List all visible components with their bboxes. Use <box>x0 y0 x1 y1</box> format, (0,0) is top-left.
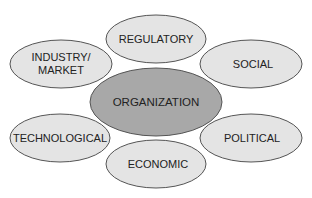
node-industry-market: INDUSTRY/ MARKET <box>10 40 112 88</box>
industry-market-label-line2: MARKET <box>38 64 84 76</box>
environment-diagram: REGULATORY INDUSTRY/ MARKET SOCIAL TECHN… <box>0 0 312 198</box>
node-political: POLITICAL <box>200 114 302 162</box>
regulatory-label: REGULATORY <box>119 33 194 45</box>
social-label: SOCIAL <box>233 58 273 70</box>
economic-label: ECONOMIC <box>128 158 189 170</box>
node-regulatory: REGULATORY <box>106 15 206 63</box>
node-organization-center: ORGANIZATION <box>90 68 222 136</box>
political-label: POLITICAL <box>224 132 280 144</box>
node-economic: ECONOMIC <box>106 140 206 188</box>
node-social: SOCIAL <box>200 40 302 88</box>
node-technological: TECHNOLOGICAL <box>10 114 110 162</box>
industry-market-label-line1: INDUSTRY/ <box>31 51 91 63</box>
technological-label: TECHNOLOGICAL <box>13 132 107 144</box>
organization-label: ORGANIZATION <box>113 96 200 108</box>
